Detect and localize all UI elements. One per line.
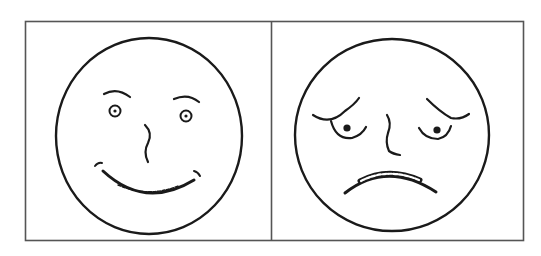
sad-face-outline [295, 39, 489, 231]
left-pupil-icon [343, 124, 350, 131]
right-eyebrow-icon [427, 99, 469, 119]
nose-icon [145, 125, 150, 162]
right-pupil-icon [184, 114, 187, 117]
left-dimple-icon [95, 163, 102, 166]
nose-icon [387, 115, 400, 155]
sad-face [295, 39, 489, 231]
left-pupil-icon [113, 109, 116, 112]
happy-face [56, 38, 242, 234]
right-eyebrow-icon [174, 97, 199, 102]
frown-mouth-icon [345, 176, 436, 193]
left-eyebrow-icon [313, 98, 359, 120]
left-eyebrow-icon [104, 91, 130, 97]
right-dimple-icon [194, 171, 200, 176]
right-pupil-icon [433, 126, 440, 133]
smile-mouth-icon [103, 171, 194, 193]
faces-figure [0, 0, 541, 256]
